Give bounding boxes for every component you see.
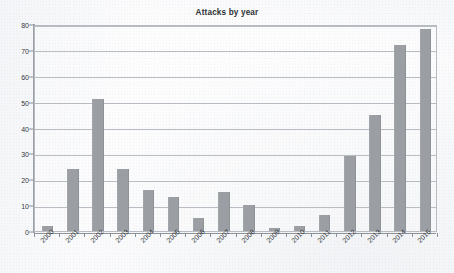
bar xyxy=(218,192,230,231)
gridline xyxy=(35,26,436,27)
x-tick-mark xyxy=(59,233,60,237)
bar xyxy=(344,156,356,231)
bar xyxy=(143,190,155,231)
x-tick-mark xyxy=(34,233,35,237)
x-tick-mark xyxy=(236,233,237,237)
bar xyxy=(168,197,180,231)
x-tick-mark xyxy=(160,233,161,237)
y-tick-label: 50 xyxy=(0,99,29,106)
bar xyxy=(420,29,432,231)
y-tick-label: 80 xyxy=(0,22,29,29)
y-tick-label: 70 xyxy=(0,47,29,54)
bar xyxy=(92,99,104,231)
y-tick-label: 10 xyxy=(0,203,29,210)
chart-title: Attacks by year xyxy=(0,8,454,17)
x-tick-mark xyxy=(437,233,438,237)
bar xyxy=(117,169,129,231)
x-tick-mark xyxy=(387,233,388,237)
gridline xyxy=(35,77,436,78)
bar xyxy=(394,45,406,231)
plot-area xyxy=(34,25,437,232)
x-tick-mark xyxy=(412,233,413,237)
y-tick-label: 0 xyxy=(0,229,29,236)
x-tick-mark xyxy=(210,233,211,237)
x-tick-mark xyxy=(286,233,287,237)
chart-page: Attacks by year 01020304050607080 200020… xyxy=(0,0,454,273)
x-tick-mark xyxy=(135,233,136,237)
x-tick-mark xyxy=(110,233,111,237)
y-tick-label: 20 xyxy=(0,177,29,184)
x-tick-mark xyxy=(361,233,362,237)
x-tick-mark xyxy=(261,233,262,237)
x-tick-mark xyxy=(84,233,85,237)
x-tick-mark xyxy=(185,233,186,237)
y-tick-label: 40 xyxy=(0,125,29,132)
bar xyxy=(67,169,79,231)
x-tick-mark xyxy=(311,233,312,237)
gridline xyxy=(35,51,436,52)
x-tick-mark xyxy=(336,233,337,237)
y-tick-label: 30 xyxy=(0,151,29,158)
y-tick-label: 60 xyxy=(0,73,29,80)
bar xyxy=(243,205,255,231)
bar xyxy=(369,115,381,231)
